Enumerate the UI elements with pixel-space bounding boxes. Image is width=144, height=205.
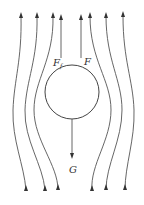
arrow-up-icon: [35, 12, 39, 18]
drag-force-symbol: F: [53, 57, 60, 68]
buoyancy-force-label: F: [84, 57, 91, 67]
arrow-up-icon: [121, 11, 125, 17]
arrow-up-icon: [56, 184, 60, 190]
drag-force-label: Ff: [53, 58, 62, 69]
arrow-up-icon: [123, 184, 127, 190]
arrow-up-icon: [24, 185, 28, 191]
force-diagram: Ff F G: [0, 0, 144, 205]
gravity-label: G: [69, 165, 77, 175]
arrow-up-icon: [104, 184, 108, 190]
flow-line-left-2: [25, 16, 45, 190]
arrow-up-icon: [79, 14, 83, 20]
arrow-up-icon: [104, 12, 108, 18]
bottom-arrowheads: [24, 184, 127, 191]
top-arrowheads: [19, 11, 125, 20]
gravity-arrowhead-icon: [70, 153, 74, 159]
sphere: [45, 65, 99, 119]
flow-line-left-1: [13, 16, 26, 190]
drag-force-subscript: f: [60, 62, 62, 69]
flow-line-right-2: [106, 16, 122, 190]
arrow-up-icon: [43, 185, 47, 191]
flow-line-left-3: [34, 16, 58, 190]
flow-line-right-3: [123, 16, 134, 190]
arrow-up-icon: [88, 12, 92, 18]
arrow-up-icon: [90, 185, 94, 191]
arrow-up-icon: [51, 12, 55, 18]
arrow-up-icon: [19, 12, 23, 18]
arrow-up-icon: [59, 14, 63, 20]
